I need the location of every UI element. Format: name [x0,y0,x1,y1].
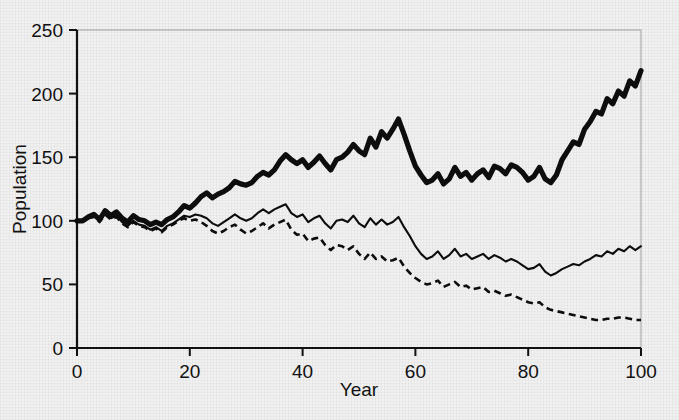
x-tick-label: 100 [625,361,657,382]
y-tick-label: 250 [31,20,63,41]
x-tick-label: 40 [292,361,313,382]
y-tick-label: 200 [31,84,63,105]
x-tick-label: 60 [405,361,426,382]
chart-figure: 050100150200250 020406080100 Year Popula… [0,0,679,420]
axis-lines [77,30,641,348]
y-tick-label: 0 [52,338,63,359]
y-tick-label: 150 [31,147,63,168]
x-tick-label: 0 [72,361,83,382]
y-axis-tick-labels: 050100150200250 [31,20,63,359]
y-axis-title: Population [9,144,30,234]
y-axis-ticks [69,30,77,348]
x-axis-ticks [77,348,641,356]
series-bold-line [77,71,641,225]
y-tick-label: 100 [31,211,63,232]
series-thin-line [77,204,641,275]
x-axis-title: Year [340,379,379,400]
line-chart-plot: 050100150200250 020406080100 Year Popula… [0,0,679,420]
plot-frame [77,30,641,348]
y-tick-label: 50 [42,274,63,295]
x-tick-label: 80 [518,361,539,382]
x-tick-label: 20 [179,361,200,382]
